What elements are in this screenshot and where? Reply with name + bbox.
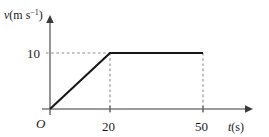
x-tick-label-50: 50 — [195, 119, 208, 134]
velocity-time-graph-figure: v(m s−1) t(s) 10 20 50 O — [0, 0, 269, 137]
x-axis-label: t(s) — [228, 120, 244, 134]
y-axis-label-exponent: −1 — [30, 8, 39, 17]
x-tick-label-20: 20 — [102, 119, 115, 134]
y-axis-label-unit-open: (m s — [9, 8, 30, 22]
x-axis-label-unit: (s) — [231, 120, 244, 134]
y-axis-label: v(m s−1) — [4, 8, 43, 22]
y-tick-label-10: 10 — [27, 46, 40, 61]
graph-canvas: v(m s−1) t(s) 10 20 50 O — [0, 0, 269, 137]
origin-label: O — [36, 116, 46, 131]
x-axis-arrow-icon — [245, 105, 253, 113]
y-axis-arrow-icon — [46, 15, 54, 23]
velocity-data-line — [50, 53, 203, 109]
y-axis-label-unit-close: ) — [39, 8, 43, 22]
